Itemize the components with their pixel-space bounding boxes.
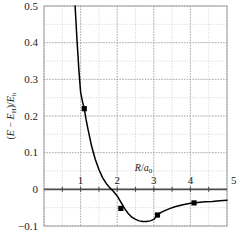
- x-axis-tick-label: 5: [231, 174, 237, 186]
- y-axis-tick-label: 0.4: [24, 36, 38, 48]
- y-axis-tick-label: 0.3: [24, 73, 38, 85]
- y-axis-tick-label: 0: [33, 183, 39, 195]
- chart-figure: −0.100.10.20.30.40.512345R/a0(E − EH)/Eh: [0, 0, 244, 241]
- data-point-marker: [191, 200, 196, 205]
- x-axis-tick-label: 1: [78, 174, 84, 186]
- x-axis-tick-label: 4: [188, 174, 194, 186]
- x-axis-label-subscript: 0: [149, 167, 153, 175]
- y-axis-tick-label: −0.1: [18, 220, 38, 232]
- x-axis-tick-label: 3: [151, 174, 157, 186]
- y-axis-tick-label: 0.5: [24, 0, 38, 12]
- data-point-marker: [82, 106, 87, 111]
- x-axis-label-R: R: [134, 162, 141, 173]
- y-axis-tick-label: 0.2: [24, 110, 38, 122]
- y-axis-tick-label: 0.1: [24, 146, 38, 158]
- data-point-marker: [118, 206, 123, 211]
- potential-energy-curve-chart: −0.100.10.20.30.40.512345R/a0(E − EH)/Eh: [0, 0, 244, 241]
- data-point-marker: [155, 212, 160, 217]
- x-axis-tick-label: 2: [114, 174, 120, 186]
